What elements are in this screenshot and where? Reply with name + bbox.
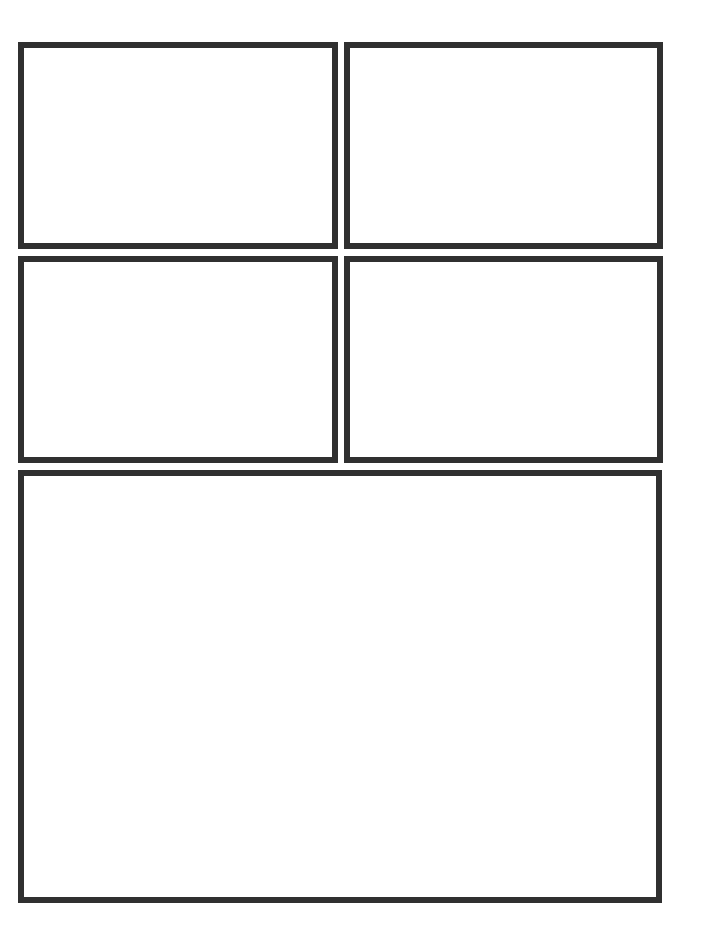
panel-middle-right	[344, 256, 663, 463]
panel-content	[24, 262, 332, 457]
panel-middle-left	[18, 256, 338, 463]
panel-bottom-wide	[18, 470, 662, 903]
panel-top-right	[344, 42, 663, 249]
panel-top-left	[18, 42, 338, 249]
panel-content	[24, 476, 656, 897]
comic-page-template	[0, 0, 701, 935]
panel-content	[24, 48, 332, 243]
panel-content	[350, 48, 657, 243]
panel-content	[350, 262, 657, 457]
